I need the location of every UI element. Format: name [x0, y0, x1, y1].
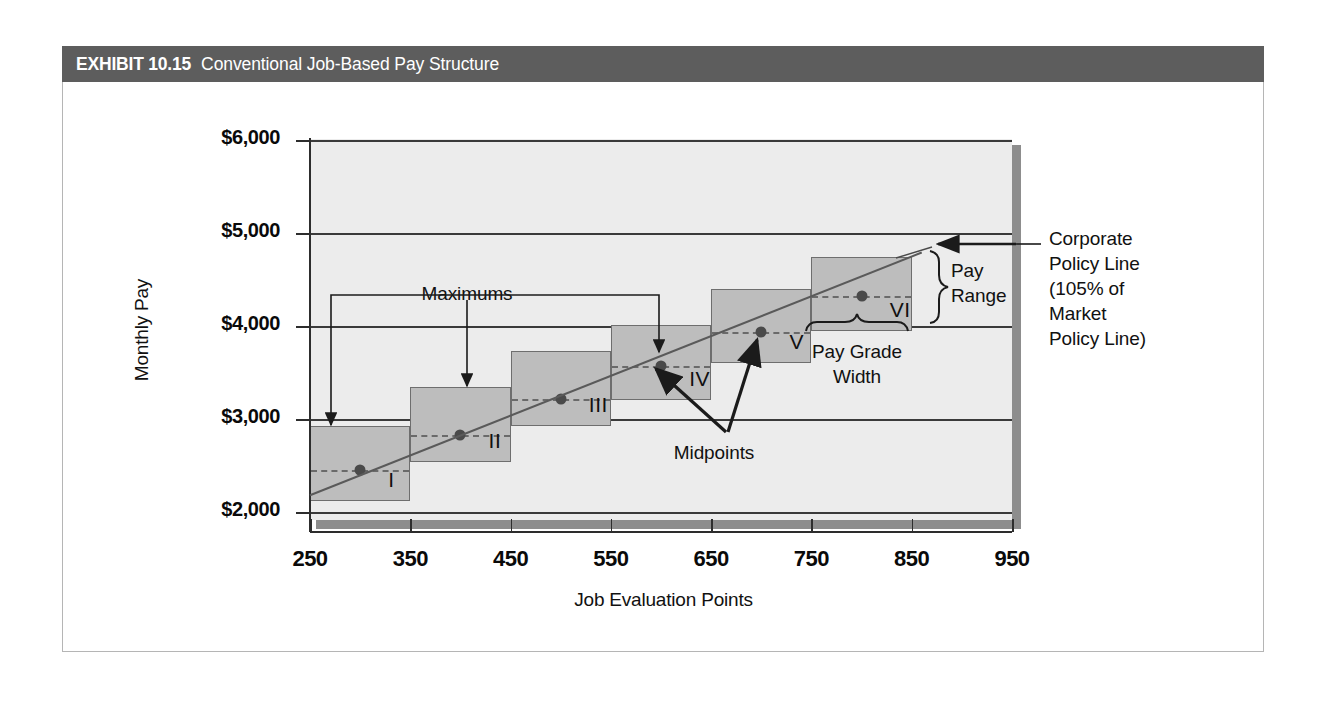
y-axis-tick-label: $3,000: [221, 405, 280, 428]
corporate-policy-line-text-5: Policy Line): [1049, 326, 1146, 351]
corporate-policy-line-text-1: Corporate: [1049, 226, 1146, 251]
y-axis-tick: [296, 512, 310, 514]
grade-label-iv: IV: [689, 367, 710, 391]
y-axis-line: [309, 138, 311, 532]
y-axis-tick: [296, 326, 310, 328]
grade-midpoint-dot: [856, 291, 867, 302]
y-gridline: [310, 140, 1012, 142]
y-axis-tick: [296, 233, 310, 235]
annotation-maximums: Maximums: [421, 281, 512, 306]
x-axis-tick-label: 250: [292, 546, 327, 572]
exhibit-header: EXHIBIT 10.15 Conventional Job-Based Pay…: [62, 46, 1264, 82]
annotation-pay-range: Pay Range: [951, 258, 1007, 308]
grade-midpoint-dot: [355, 465, 366, 476]
annotation-pay-range-line1: Pay: [951, 258, 1007, 283]
x-axis-title: Job Evaluation Points: [0, 589, 1327, 611]
x-axis-tick-label: 550: [593, 546, 628, 572]
grade-midpoint-dot: [455, 429, 466, 440]
grade-label-ii: II: [489, 429, 502, 453]
x-axis-tick-label: 450: [493, 546, 528, 572]
y-axis-tick-label: $5,000: [221, 219, 280, 242]
grade-midpoint-dot: [756, 326, 767, 337]
annotation-corporate-policy-line: CorporatePolicy Line(105% ofMarketPolicy…: [1049, 226, 1146, 351]
grade-midpoint-dot: [656, 360, 667, 371]
grade-label-iii: III: [589, 393, 608, 417]
exhibit-page: EXHIBIT 10.15 Conventional Job-Based Pay…: [0, 0, 1327, 701]
y-axis-tick: [296, 419, 310, 421]
corporate-policy-line-text-2: Policy Line: [1049, 251, 1146, 276]
exhibit-title: Conventional Job-Based Pay Structure: [201, 54, 499, 75]
grade-label-i: I: [388, 468, 394, 492]
annotation-pay-grade-width-line2: Width: [812, 364, 902, 389]
y-axis-tick-label: $4,000: [221, 312, 280, 335]
y-axis-tick: [296, 140, 310, 142]
annotation-pay-grade-width: Pay Grade Width: [812, 339, 902, 389]
annotation-midpoints: Midpoints: [674, 440, 754, 465]
grade-box: [310, 426, 410, 501]
plot-shadow-bottom: [316, 520, 1021, 529]
y-axis-tick-label: $6,000: [221, 126, 280, 149]
x-axis-tick: [1012, 519, 1014, 532]
annotation-pay-range-line2: Range: [951, 283, 1007, 308]
exhibit-label: EXHIBIT 10.15: [76, 54, 191, 75]
x-axis-tick-label: 350: [393, 546, 428, 572]
y-axis-title: Monthly Pay: [131, 279, 153, 381]
corporate-policy-line-text-4: Market: [1049, 301, 1146, 326]
plot-shadow-right: [1012, 145, 1021, 526]
x-axis-tick-label: 950: [994, 546, 1029, 572]
x-axis-tick-label: 850: [894, 546, 929, 572]
grade-label-vi: VI: [890, 298, 911, 322]
y-gridline: [310, 233, 1012, 235]
y-gridline: [310, 512, 1012, 514]
grade-midpoint-dot: [555, 394, 566, 405]
y-axis-tick-label: $2,000: [221, 498, 280, 521]
corporate-policy-line-text-3: (105% of: [1049, 276, 1146, 301]
x-axis-tick-label: 750: [794, 546, 829, 572]
x-axis-line: [310, 531, 1012, 533]
grade-label-v: V: [789, 330, 804, 354]
x-axis-tick-label: 650: [694, 546, 729, 572]
annotation-pay-grade-width-line1: Pay Grade: [812, 339, 902, 364]
